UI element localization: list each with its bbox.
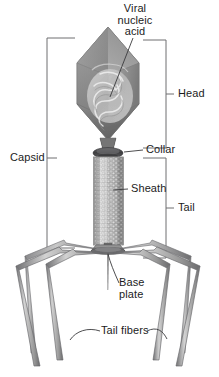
sheath-cylinder	[94, 157, 124, 253]
phage-diagram: Viral nucleic acid Head Collar Sheath Ta…	[0, 0, 219, 377]
label-capsid: Capsid	[10, 152, 45, 164]
leader-tail-fibers-left	[70, 329, 100, 340]
head-bracket	[143, 40, 174, 148]
phage-illustration	[0, 0, 219, 377]
leader-base-plate	[108, 254, 119, 283]
leader-collar	[124, 150, 143, 152]
label-tail: Tail	[178, 202, 195, 214]
label-head: Head	[178, 88, 205, 100]
label-base-plate: Base plate	[119, 277, 144, 300]
label-viral-nucleic-acid: Viral nucleic acid	[104, 3, 166, 38]
label-tail-fibers: Tail fibers	[101, 325, 149, 337]
capsid-bracket	[47, 38, 75, 248]
label-sheath: Sheath	[131, 183, 166, 195]
label-collar: Collar	[146, 144, 175, 156]
